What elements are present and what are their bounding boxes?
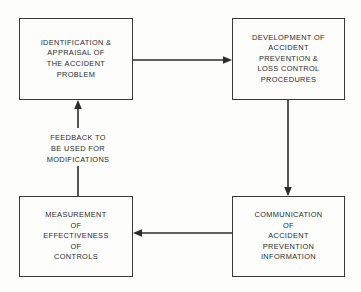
- edge-identification-to-development: [133, 56, 232, 64]
- node-development-line-4: LOSS CONTROL: [257, 64, 319, 75]
- node-measurement-line-2: OF: [71, 221, 82, 232]
- edge-label-feedback-line-1: FEEDBACK TO: [14, 132, 142, 143]
- node-communication-line-2: OF: [283, 221, 294, 232]
- node-communication-line-1: COMMUNICATION: [254, 210, 322, 221]
- node-measurement-line-3: EFFECTIVENESS: [43, 231, 108, 242]
- node-development-line-2: ACCIDENT: [268, 43, 309, 54]
- node-development[interactable]: DEVELOPMENT OF ACCIDENT PREVENTION & LOS…: [232, 18, 345, 100]
- node-development-line-5: PROCEDURES: [261, 75, 317, 86]
- node-identification[interactable]: IDENTIFICATION & APPRAISAL OF THE ACCIDE…: [19, 18, 133, 100]
- node-communication-line-4: PREVENTION: [263, 242, 315, 253]
- node-development-line-3: PREVENTION &: [259, 54, 318, 65]
- node-measurement-line-4: OF: [71, 242, 82, 253]
- node-development-line-1: DEVELOPMENT OF: [252, 33, 325, 44]
- node-measurement-line-5: CONTROLS: [54, 252, 98, 263]
- node-communication[interactable]: COMMUNICATION OF ACCIDENT PREVENTION INF…: [232, 196, 345, 277]
- node-identification-line-2: APPRAISAL OF: [47, 48, 104, 59]
- node-identification-line-4: PROBLEM: [57, 70, 96, 81]
- edge-label-feedback: FEEDBACK TO BE USED FOR MODIFICATIONS: [14, 131, 142, 166]
- edge-label-feedback-line-2: BE USED FOR: [14, 143, 142, 154]
- node-identification-line-3: THE ACCIDENT: [47, 59, 105, 70]
- node-communication-line-5: INFORMATION: [261, 252, 316, 263]
- flowchart-diagram: IDENTIFICATION & APPRAISAL OF THE ACCIDE…: [0, 0, 361, 292]
- edge-communication-to-measurement: [133, 229, 232, 237]
- node-communication-line-3: ACCIDENT: [268, 231, 309, 242]
- node-identification-line-1: IDENTIFICATION &: [41, 38, 112, 49]
- edge-label-feedback-line-3: MODIFICATIONS: [14, 154, 142, 165]
- node-measurement[interactable]: MEASUREMENT OF EFFECTIVENESS OF CONTROLS: [19, 196, 133, 277]
- node-measurement-line-1: MEASUREMENT: [45, 210, 106, 221]
- edge-development-to-communication: [284, 100, 292, 196]
